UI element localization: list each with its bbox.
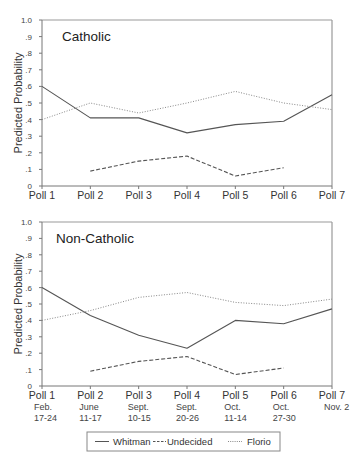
y-tick-label: .4 [25,116,32,125]
y-axis-label: Predicted Probability [12,52,24,153]
legend-label-whitman: Whitman [113,436,150,447]
y-tick-label: .8 [25,251,32,260]
x-tick-label: Poll 2 [77,189,103,201]
poll-date-range: 11-17 [79,413,101,423]
y-tick-label: .6 [25,82,32,91]
y-tick-label: .1 [25,165,32,174]
x-tick-label: Poll 3 [126,189,152,201]
poll-date-range: 17-24 [34,413,57,423]
x-tick-label: Poll 1 [29,389,55,401]
non-catholic-panel: 0.1.2.3.4.5.6.7.8.91.0Predicted Probabil… [12,218,349,423]
x-tick-label: Poll 6 [271,189,297,201]
poll-date-label: Feb. [34,402,52,412]
poll-date-label: June [79,402,99,412]
y-tick-label: .2 [25,149,32,158]
x-tick-label: Poll 6 [271,389,297,401]
y-axis-label: Predicted Probability [12,253,24,354]
y-tick-label: .8 [25,49,32,58]
y-tick-label: 1.0 [21,218,33,227]
panel-title: Catholic [62,29,111,44]
poll-date-label: Oct. [273,402,290,412]
y-tick-label: .3 [25,132,32,141]
y-tick-label: .1 [25,366,32,375]
series-line-whitman [42,86,332,132]
poll-date-range: 20-26 [176,413,199,423]
series-line-florio [42,293,332,321]
y-tick-label: .5 [25,99,32,108]
y-tick-label: .2 [25,349,32,358]
y-tick-label: .6 [25,284,32,293]
y-tick-label: .7 [25,267,32,276]
legend-label-undecided: Undecided [167,436,212,447]
y-tick-label: .9 [25,234,32,243]
poll-date-label: Sept. [176,402,197,412]
x-tick-label: Poll 3 [126,389,152,401]
x-tick-label: Poll 5 [222,389,248,401]
poll-date-label: Oct. [224,402,241,412]
series-line-undecided [90,357,283,375]
x-tick-label: Poll 2 [77,389,103,401]
chart-canvas: 0.1.2.3.4.5.6.7.8.91.0Predicted Probabil… [0,0,356,464]
x-tick-label: Poll 5 [222,189,248,201]
x-tick-label: Poll 7 [319,389,345,401]
y-tick-label: .7 [25,66,32,75]
y-tick-label: .3 [25,333,32,342]
poll-date-range: 10-15 [128,413,151,423]
poll-date-label: Sept. [128,402,149,412]
x-tick-label: Poll 4 [174,389,200,401]
series-line-whitman [42,288,332,349]
poll-date-range: 11-14 [224,413,246,423]
legend: WhitmanUndecidedFlorio [87,432,280,451]
x-tick-label: Poll 7 [319,189,345,201]
poll-date-label: Nov. 2 [324,402,349,412]
y-tick-label: .4 [25,316,32,325]
y-tick-label: .9 [25,33,32,42]
poll-date-range: 27-30 [273,413,296,423]
legend-label-florio: Florio [247,436,271,447]
panel-title: Non-Catholic [56,231,134,246]
y-tick-label: .5 [25,300,32,309]
x-tick-label: Poll 4 [174,189,200,201]
x-tick-label: Poll 1 [29,189,55,201]
catholic-panel: 0.1.2.3.4.5.6.7.8.91.0Predicted Probabil… [12,16,345,201]
y-tick-label: 1.0 [21,16,33,25]
series-line-undecided [90,156,283,176]
